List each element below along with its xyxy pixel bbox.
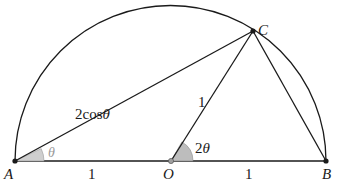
label-B: B	[322, 166, 331, 182]
semicircle-arc	[15, 5, 326, 161]
label-OB-length: 1	[245, 166, 253, 182]
label-angle-2theta: 2θ	[195, 140, 211, 156]
segment-OC	[171, 31, 253, 161]
point-C	[250, 28, 255, 33]
label-AC-length: 2cosθ	[75, 106, 111, 122]
point-B	[323, 158, 328, 163]
point-O	[168, 158, 173, 163]
label-A: A	[3, 166, 14, 182]
semicircle-diagram: A O B C 2cosθ 1 1 1 θ 2θ	[0, 0, 338, 189]
point-A	[12, 158, 17, 163]
label-C: C	[258, 22, 269, 38]
label-O: O	[163, 166, 174, 182]
segment-AC	[15, 31, 253, 161]
label-AO-length: 1	[88, 166, 96, 182]
label-angle-theta: θ	[48, 145, 55, 160]
segment-CB	[253, 31, 326, 161]
label-OC-length: 1	[198, 94, 206, 110]
